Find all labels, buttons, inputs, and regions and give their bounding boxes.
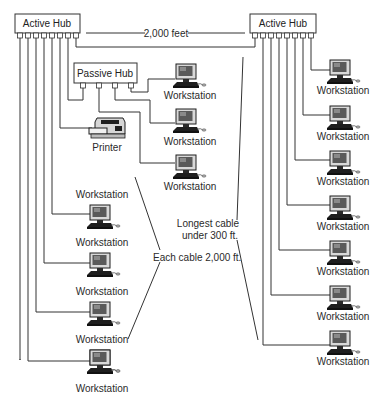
longest-cable-annotation-line2: under 300 ft. <box>182 230 238 241</box>
longest-cable-annotation-line1: Longest cable <box>177 218 239 229</box>
workstation-icon <box>173 155 206 179</box>
each-cable-annotation: Each cable 2,000 ft. <box>153 252 241 263</box>
left-hub-label: Active Hub <box>23 18 71 29</box>
workstation-icon <box>173 64 206 88</box>
workstation-icon <box>327 151 360 175</box>
workstation-label: Workstation <box>164 181 217 192</box>
network-diagram: Active Hub Active Hub Passive Hub 2,000 … <box>0 0 381 402</box>
workstation-icon <box>327 196 360 220</box>
workstation-label: Workstation <box>164 90 217 101</box>
workstation-label: Workstation <box>76 383 129 394</box>
workstation-label: Workstation <box>317 176 370 187</box>
workstation-icon <box>327 60 360 84</box>
passive-hub-label: Passive Hub <box>77 68 133 79</box>
workstation-icon <box>87 205 120 229</box>
workstation-icon <box>327 241 360 265</box>
workstation-icon <box>327 286 360 310</box>
workstation-label: Workstation <box>317 131 370 142</box>
right-hub-label: Active Hub <box>259 18 307 29</box>
workstation-label: Workstation <box>76 237 129 248</box>
workstation-icon <box>327 106 360 130</box>
workstation-label: Workstation <box>317 266 370 277</box>
workstation-label: Workstation <box>317 221 370 232</box>
workstation-label: Workstation <box>76 334 129 345</box>
workstation-icon <box>173 109 206 133</box>
workstation-label: Workstation <box>76 189 129 200</box>
printer-label: Printer <box>92 142 121 153</box>
hub-distance-label: 2,000 feet <box>144 28 188 39</box>
workstation-icon <box>87 253 120 277</box>
workstation-label: Workstation <box>317 85 370 96</box>
cables <box>20 33 330 361</box>
workstation-label: Workstation <box>317 356 370 367</box>
workstation-icon <box>87 350 120 374</box>
diagram-canvas <box>0 0 381 402</box>
workstation-label: Workstation <box>76 286 129 297</box>
workstation-icon <box>87 302 120 326</box>
workstation-label: Workstation <box>164 136 217 147</box>
printer-icon <box>89 118 125 138</box>
workstation-icon <box>327 331 360 355</box>
workstation-label: Workstation <box>317 311 370 322</box>
